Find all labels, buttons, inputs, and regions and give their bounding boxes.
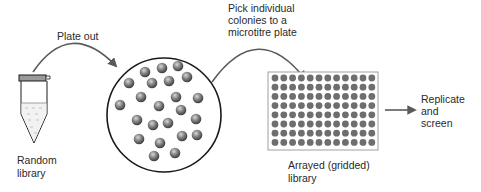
well-icon	[333, 102, 340, 109]
well-icon	[324, 84, 331, 91]
replicate-label-line-1: Replicate	[421, 93, 465, 106]
well-icon	[272, 93, 279, 100]
well-icon	[324, 102, 331, 109]
well-icon	[272, 130, 279, 137]
well-icon	[342, 130, 349, 137]
well-icon	[272, 121, 279, 128]
well-icon	[298, 139, 305, 146]
well-icon	[360, 111, 367, 118]
well-icon	[324, 130, 331, 137]
well-icon	[280, 84, 287, 91]
well-icon	[307, 84, 314, 91]
well-icon	[333, 139, 340, 146]
arrayed-library-label-line-2: library	[288, 172, 317, 185]
library-screening-diagram: Plate out Pick individual colonies to a …	[0, 0, 481, 192]
well-icon	[360, 130, 367, 137]
well-icon	[324, 93, 331, 100]
well-icon	[316, 75, 323, 82]
well-icon	[333, 121, 340, 128]
well-icon	[298, 111, 305, 118]
well-icon	[289, 130, 296, 137]
well-icon	[280, 121, 287, 128]
well-icon	[333, 111, 340, 118]
replicate-label-line-2: and	[421, 105, 439, 118]
well-icon	[316, 102, 323, 109]
well-icon	[307, 139, 314, 146]
well-icon	[351, 121, 358, 128]
well-icon	[307, 111, 314, 118]
well-icon	[307, 93, 314, 100]
microcentrifuge-tube-icon	[19, 75, 50, 143]
well-icon	[316, 93, 323, 100]
well-icon	[324, 121, 331, 128]
well-icon	[289, 93, 296, 100]
well-icon	[289, 111, 296, 118]
well-icon	[342, 121, 349, 128]
well-icon	[307, 121, 314, 128]
well-icon	[351, 111, 358, 118]
well-icon	[324, 139, 331, 146]
well-icon	[272, 102, 279, 109]
well-icon	[368, 130, 375, 137]
well-icon	[316, 130, 323, 137]
well-icon	[368, 102, 375, 109]
well-icon	[280, 93, 287, 100]
microtitre-plate-icon	[268, 72, 378, 150]
well-icon	[280, 102, 287, 109]
well-icon	[324, 75, 331, 82]
well-icon	[351, 93, 358, 100]
well-icon	[272, 75, 279, 82]
random-library-label-line-2: library	[17, 167, 46, 180]
well-icon	[342, 139, 349, 146]
well-icon	[342, 84, 349, 91]
well-icon	[333, 75, 340, 82]
well-icon	[360, 102, 367, 109]
well-icon	[360, 139, 367, 146]
well-icon	[289, 102, 296, 109]
well-icon	[307, 130, 314, 137]
pick-colonies-label-line-2: colonies to a	[228, 14, 287, 27]
well-icon	[272, 111, 279, 118]
well-icon	[272, 84, 279, 91]
pick-colonies-label-line-1: Pick individual	[228, 2, 295, 15]
well-icon	[316, 121, 323, 128]
well-icon	[298, 75, 305, 82]
well-icon	[368, 121, 375, 128]
well-icon	[368, 93, 375, 100]
well-icon	[360, 121, 367, 128]
well-icon	[280, 75, 287, 82]
well-icon	[298, 130, 305, 137]
pick-colonies-label-line-3: microtitre plate	[228, 26, 297, 39]
well-icon	[280, 130, 287, 137]
well-icon	[289, 139, 296, 146]
well-icon	[289, 75, 296, 82]
well-icon	[289, 84, 296, 91]
well-icon	[289, 121, 296, 128]
well-icon	[333, 84, 340, 91]
plate-out-arrow	[33, 43, 116, 72]
well-icon	[316, 139, 323, 146]
well-icon	[360, 75, 367, 82]
well-icon	[333, 130, 340, 137]
arrayed-library-label-line-1: Arrayed (gridded)	[288, 159, 370, 172]
well-icon	[333, 93, 340, 100]
well-icon	[351, 75, 358, 82]
well-icon	[298, 93, 305, 100]
well-icon	[351, 130, 358, 137]
well-icon	[360, 93, 367, 100]
well-icon	[316, 84, 323, 91]
well-icon	[298, 102, 305, 109]
well-icon	[272, 139, 279, 146]
well-icon	[280, 111, 287, 118]
well-icon	[351, 139, 358, 146]
well-icon	[351, 84, 358, 91]
well-icon	[342, 93, 349, 100]
well-icon	[324, 111, 331, 118]
well-icon	[298, 84, 305, 91]
well-icon	[368, 139, 375, 146]
replicate-label-line-3: screen	[421, 117, 453, 130]
well-icon	[280, 139, 287, 146]
agar-plate-icon	[107, 58, 221, 172]
well-icon	[307, 102, 314, 109]
plate-out-label: Plate out	[57, 30, 98, 43]
